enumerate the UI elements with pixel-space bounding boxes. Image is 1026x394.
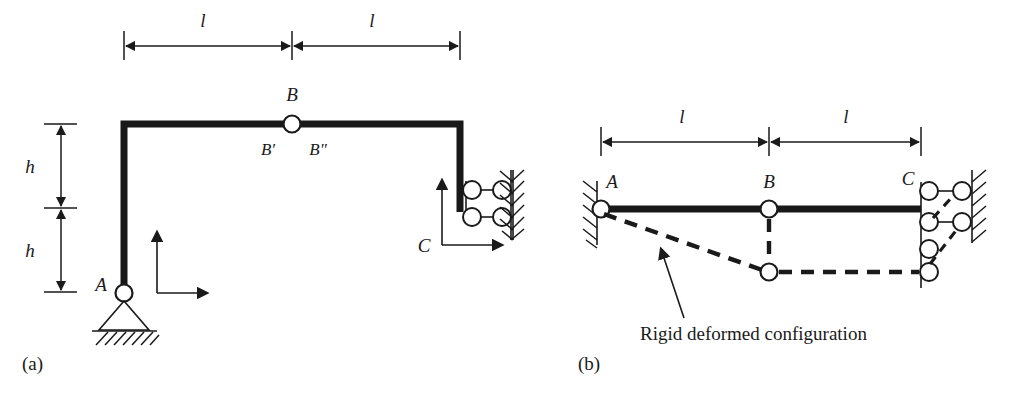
roller-outer-upper-c-b — [953, 182, 971, 200]
node-label-b-double-prime: B″ — [309, 140, 327, 159]
dim-label-h-upper: h — [25, 156, 35, 177]
panel-label-a: (a) — [22, 353, 43, 375]
wall-hatching-c-b — [972, 170, 986, 242]
roller-inner-lower-c — [463, 208, 481, 226]
figure-svg: l l h h B B′ B″ A — [0, 0, 1026, 394]
roller-support-c — [463, 170, 524, 240]
annotation-caption: Rigid deformed configuration — [640, 323, 867, 344]
panel-b-horizontal-dimensions — [601, 127, 921, 156]
deformed-configuration-b — [604, 214, 919, 281]
node-label-b: B — [286, 84, 298, 105]
roller-inner-upper-c — [463, 181, 481, 199]
dim-label-l-left-b: l — [679, 106, 684, 127]
pin-support-hatching-a — [96, 332, 159, 345]
pin-support-triangle-a — [99, 301, 149, 330]
pin-node-a — [116, 285, 133, 302]
panel-a: l l h h B B′ B″ A — [22, 10, 524, 375]
node-label-b-b: B — [763, 171, 775, 192]
panel-a-horizontal-dimensions — [124, 31, 460, 60]
dim-label-l-left: l — [200, 10, 205, 31]
deformed-hinge-node-b — [761, 264, 778, 281]
roller-outer-lower-c-b — [953, 213, 971, 231]
panel-label-b: (b) — [578, 353, 600, 375]
deformed-link-roller-upper-c-b — [933, 196, 953, 218]
dim-label-h-lower: h — [25, 240, 35, 261]
hinge-node-b-b — [761, 201, 778, 218]
annotation-leader-line — [661, 249, 684, 318]
frame-member-path — [124, 124, 460, 292]
roller-outer-lower-c — [493, 208, 511, 226]
hinge-node-b — [284, 116, 301, 133]
panel-b: l l — [500, 106, 986, 375]
node-label-b-prime: B′ — [261, 140, 275, 159]
node-label-a-b: A — [604, 171, 618, 192]
node-label-c: C — [418, 235, 431, 256]
coordinate-axes-a — [157, 232, 207, 293]
panel-a-vertical-dimensions — [44, 124, 77, 292]
deformed-member-ab — [604, 214, 762, 270]
dim-label-l-right: l — [369, 10, 374, 31]
node-label-a: A — [93, 274, 107, 295]
figure-root: l l h h B B′ B″ A — [0, 0, 1026, 394]
roller-support-c-b — [920, 170, 986, 288]
roller-inner-bottom-c-b — [920, 263, 938, 281]
node-label-c-b: C — [902, 168, 915, 189]
roller-inner-upper-c-b — [920, 182, 938, 200]
roller-inner-lower-c-b — [920, 240, 938, 258]
dim-label-l-right-b: l — [843, 106, 848, 127]
